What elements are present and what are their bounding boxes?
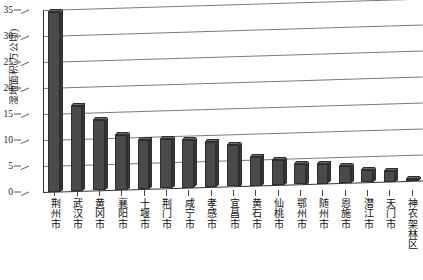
y-tick-mark: [14, 88, 21, 89]
bar-face: [272, 160, 284, 185]
y-tick-mark: [14, 36, 21, 37]
bar-face: [182, 140, 194, 187]
bar-side-face: [105, 118, 108, 191]
x-tick-label: 恩施市: [340, 198, 350, 229]
bar: [384, 171, 396, 182]
x-tick-mark: [77, 190, 78, 196]
y-tick-connector: [21, 88, 30, 93]
x-axis-tick-marks: [43, 190, 423, 198]
x-tick-mark: [211, 190, 212, 196]
y-tick-label: 5: [8, 161, 13, 171]
x-tick-label: 十堰市: [139, 198, 149, 229]
bar-side-face: [60, 9, 63, 191]
bar-face: [160, 139, 172, 188]
bar-face: [339, 166, 351, 183]
wetland-area-bar-chart: 湿地面积(万公顷) 35302520151050 荆州市武汉市黄冈市襄阳市十堰市…: [0, 0, 423, 280]
y-tick-connector: [21, 140, 30, 145]
x-tick-mark: [188, 190, 189, 196]
bar: [406, 179, 418, 181]
bar-side-face: [351, 163, 354, 183]
x-tick-label: 荆州市: [49, 198, 59, 229]
x-tick-label: 武汉市: [72, 198, 82, 229]
y-tick-connector: [21, 166, 30, 171]
x-tick-mark: [412, 190, 413, 196]
bar-side-face: [328, 162, 331, 184]
x-tick-mark: [300, 190, 301, 196]
bar: [361, 170, 373, 182]
bar: [182, 140, 194, 187]
x-tick-mark: [345, 190, 346, 196]
x-tick-mark: [389, 190, 390, 196]
x-tick-label: 孝感市: [206, 198, 216, 229]
bar-face: [93, 120, 105, 190]
bar-side-face: [284, 158, 287, 185]
bar-side-face: [395, 168, 398, 181]
y-tick-label: 0: [8, 187, 13, 197]
x-tick-label: 鄂州市: [295, 198, 305, 229]
bar-side-face: [373, 168, 376, 182]
bar: [138, 140, 150, 189]
bar-face: [406, 179, 418, 181]
plot-area: [43, 10, 423, 192]
bar-face: [48, 12, 60, 192]
y-tick-connector: [21, 10, 30, 15]
x-tick-label: 黄冈市: [94, 198, 104, 229]
x-tick-label: 天门市: [384, 198, 394, 229]
y-tick-mark: [14, 62, 21, 63]
bar-side-face: [82, 103, 85, 191]
x-tick-mark: [322, 190, 323, 196]
y-tick-mark: [14, 114, 21, 115]
bar: [272, 160, 284, 185]
bar-face: [317, 164, 329, 183]
x-tick-mark: [144, 190, 145, 196]
bar: [93, 120, 105, 190]
x-tick-label: 潜江市: [362, 198, 372, 229]
bar-face: [227, 145, 239, 187]
bar-side-face: [239, 142, 242, 186]
bar-side-face: [418, 177, 421, 181]
bar-side-face: [261, 154, 264, 185]
y-tick-label: 15: [4, 109, 14, 119]
y-tick-mark: [14, 166, 21, 167]
bar-side-face: [172, 137, 175, 188]
x-tick-mark: [99, 190, 100, 196]
bar: [160, 139, 172, 188]
bar: [48, 12, 60, 192]
x-axis-category-labels: 荆州市武汉市黄冈市襄阳市十堰市荆门市咸宁市孝感市宜昌市黄石市仙桃市鄂州市随州市恩…: [43, 198, 423, 280]
bar-face: [115, 135, 127, 190]
bar-face: [384, 171, 396, 182]
bar-series: [43, 10, 423, 192]
bar-side-face: [194, 138, 197, 188]
y-tick-label: 20: [4, 83, 14, 93]
bar-side-face: [306, 161, 309, 184]
bar: [115, 135, 127, 190]
x-tick-label: 荆门市: [161, 198, 171, 229]
bar-face: [138, 140, 150, 189]
y-tick-mark: [14, 192, 21, 193]
y-tick-connector: [21, 192, 30, 197]
x-tick-mark: [255, 190, 256, 196]
x-tick-label: 襄阳市: [116, 198, 126, 229]
bar-side-face: [149, 137, 152, 189]
bar: [71, 106, 83, 191]
bar: [250, 157, 262, 186]
bar: [339, 166, 351, 183]
x-tick-label: 仙桃市: [273, 198, 283, 229]
x-tick-label: 神农架林区: [407, 198, 417, 250]
bar-face: [71, 106, 83, 191]
x-tick-label: 咸宁市: [183, 198, 193, 229]
x-tick-label: 随州市: [317, 198, 327, 229]
y-tick-connector: [21, 62, 30, 67]
x-tick-mark: [166, 190, 167, 196]
bar-face: [361, 170, 373, 182]
y-axis-tick-labels: 35302520151050: [0, 0, 43, 200]
x-tick-mark: [121, 190, 122, 196]
bar-face: [250, 157, 262, 186]
bar: [227, 145, 239, 187]
bar: [205, 142, 217, 187]
bar-face: [205, 142, 217, 187]
bar-side-face: [216, 140, 219, 187]
x-tick-label: 宜昌市: [228, 198, 238, 229]
y-tick-mark: [14, 10, 21, 11]
bar: [294, 164, 306, 185]
